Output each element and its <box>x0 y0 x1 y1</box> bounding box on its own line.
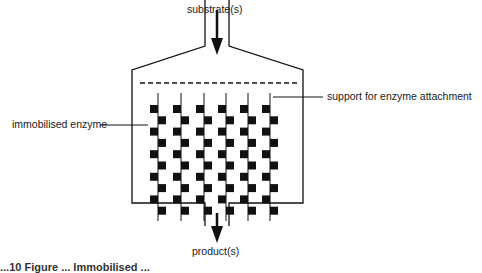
enzyme-block <box>204 184 212 192</box>
enzyme-block <box>262 195 270 203</box>
enzyme-block <box>270 207 278 215</box>
enzyme-block <box>226 162 234 170</box>
enzyme-block <box>196 150 204 158</box>
enzyme-block <box>218 150 226 158</box>
enzyme-block <box>248 162 256 170</box>
enzyme-block <box>196 105 204 113</box>
enzyme-block <box>226 116 234 124</box>
inlet-label: substrate(s) <box>187 3 242 15</box>
inlet-pipe-left <box>132 0 205 226</box>
inlet-arrow-icon <box>211 10 223 55</box>
outlet-label: product(s) <box>192 245 239 257</box>
support-label: support for enzyme attachment <box>327 90 472 102</box>
enzyme-block <box>196 195 204 203</box>
enzyme-block <box>240 150 248 158</box>
enzyme-block <box>150 105 158 113</box>
enzyme-block <box>173 128 181 136</box>
enzyme-block <box>248 139 256 147</box>
enzyme-block <box>181 116 189 124</box>
enzyme-block <box>150 128 158 136</box>
enzyme-block <box>270 139 278 147</box>
enzyme-block <box>240 128 248 136</box>
enzyme-block <box>270 116 278 124</box>
enzyme-block <box>226 139 234 147</box>
enzyme-block <box>204 116 212 124</box>
enzyme-block <box>248 184 256 192</box>
enzyme-support-rods <box>150 93 278 221</box>
enzyme-block <box>262 150 270 158</box>
enzyme-block <box>204 207 212 215</box>
enzyme-block <box>218 105 226 113</box>
enzyme-block <box>150 195 158 203</box>
enzyme-block <box>240 105 248 113</box>
enzyme-block <box>218 173 226 181</box>
enzyme-block <box>262 128 270 136</box>
enzyme-block <box>173 150 181 158</box>
enzyme-block <box>240 173 248 181</box>
enzyme-block <box>226 184 234 192</box>
enzyme-block <box>158 207 166 215</box>
enzyme-block <box>181 139 189 147</box>
enzyme-block <box>158 184 166 192</box>
enzyme-block <box>204 139 212 147</box>
enzyme-block <box>262 105 270 113</box>
enzyme-block <box>158 139 166 147</box>
enzyme-block <box>150 150 158 158</box>
enzyme-block <box>196 173 204 181</box>
enzyme-label: immobilised enzyme <box>12 118 107 130</box>
enzyme-block <box>181 162 189 170</box>
enzyme-block <box>204 162 212 170</box>
enzyme-block <box>218 195 226 203</box>
enzyme-block <box>173 195 181 203</box>
enzyme-block <box>196 128 204 136</box>
enzyme-block <box>262 173 270 181</box>
outlet-arrow-icon <box>211 213 223 243</box>
enzyme-block <box>158 162 166 170</box>
enzyme-block <box>181 207 189 215</box>
enzyme-block <box>181 184 189 192</box>
enzyme-block <box>226 207 234 215</box>
enzyme-block <box>270 162 278 170</box>
enzyme-block <box>248 207 256 215</box>
enzyme-block <box>218 128 226 136</box>
enzyme-block <box>173 105 181 113</box>
figure-caption: ...10 Figure ... Immobilised ... <box>0 261 150 273</box>
enzyme-block <box>270 184 278 192</box>
enzyme-block <box>173 173 181 181</box>
enzyme-block <box>240 195 248 203</box>
enzyme-block <box>158 116 166 124</box>
enzyme-block <box>150 173 158 181</box>
enzyme-block <box>248 116 256 124</box>
